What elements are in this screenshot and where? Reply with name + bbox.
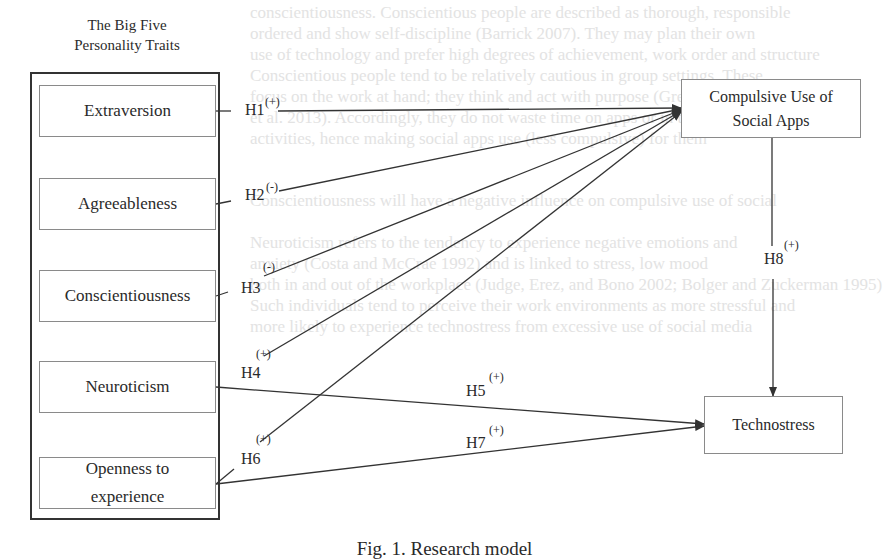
hypothesis-sign-h3: (-): [263, 260, 275, 275]
node-compulsive-use: Compulsive Use of Social Apps: [681, 79, 861, 138]
hypothesis-sign-h2: (-): [266, 180, 278, 195]
hypothesis-label-h4: H4: [241, 364, 261, 382]
trait-label: Agreeableness: [78, 190, 177, 218]
hypothesis-label-h2: H2: [245, 186, 265, 204]
trait-label: Neuroticism: [85, 373, 169, 401]
hypothesis-label-h1: H1: [245, 101, 265, 119]
h1-arrow: [278, 108, 681, 111]
h7-arrow: [216, 426, 704, 484]
group-title: The Big Five Personality Traits: [52, 15, 202, 55]
research-model-diagram: conscientiousness. Conscientious people …: [0, 0, 889, 559]
hypothesis-sign-h4: (+): [256, 347, 271, 362]
hypothesis-sign-h7: (+): [489, 423, 504, 438]
trait-agreeableness: Agreeableness: [39, 178, 216, 230]
h3-arrow: [264, 110, 681, 276]
hypothesis-sign-h8: (+): [784, 238, 799, 253]
trait-openness: Openness to experience: [39, 457, 216, 509]
trait-label: Extraversion: [84, 97, 171, 125]
hypothesis-label-h8: H8: [764, 250, 784, 268]
hypothesis-label-h3: H3: [241, 279, 261, 297]
h4-arrow: [264, 111, 681, 356]
hypothesis-label-h6: H6: [241, 450, 261, 468]
h2-arrow: [279, 109, 681, 191]
trait-label: Conscientiousness: [65, 282, 191, 310]
trait-neuroticism: Neuroticism: [39, 361, 216, 413]
hypothesis-label-h7: H7: [466, 434, 486, 452]
group-title-line1: The Big Five: [52, 15, 202, 35]
hypothesis-label-h5: H5: [466, 382, 486, 400]
group-title-line2: Personality Traits: [52, 35, 202, 55]
node-technostress: Technostress: [704, 396, 843, 454]
hypothesis-sign-h5: (+): [489, 370, 504, 385]
node-label: Technostress: [732, 413, 814, 437]
trait-conscientiousness: Conscientiousness: [39, 270, 216, 322]
trait-label: Openness to experience: [70, 455, 185, 511]
trait-extraversion: Extraversion: [39, 85, 216, 137]
figure-caption: Fig. 1. Research model: [0, 538, 889, 559]
node-label: Compulsive Use of Social Apps: [702, 85, 840, 133]
hypothesis-sign-h6: (+): [256, 432, 271, 447]
hypothesis-sign-h1: (+): [265, 95, 280, 110]
